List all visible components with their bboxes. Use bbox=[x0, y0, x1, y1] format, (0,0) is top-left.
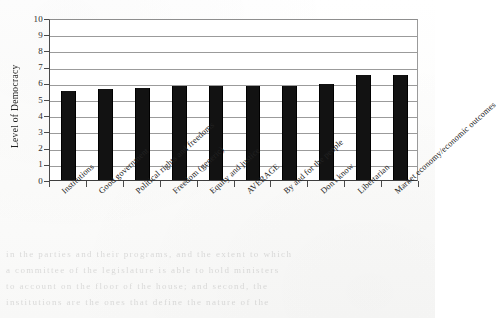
y-tick-label: 1 bbox=[13, 160, 43, 169]
x-tick-mark bbox=[270, 181, 271, 187]
bar bbox=[319, 84, 334, 180]
gridline bbox=[50, 52, 417, 53]
x-tick-mark bbox=[307, 181, 308, 187]
y-tick-label: 2 bbox=[13, 144, 43, 153]
x-tick-mark bbox=[418, 181, 419, 187]
bar bbox=[209, 86, 224, 180]
y-tick-label: 10 bbox=[13, 15, 43, 24]
gridline bbox=[50, 36, 417, 37]
y-tick-label: 9 bbox=[13, 31, 43, 40]
x-tick-mark bbox=[344, 181, 345, 187]
y-tick-label: 4 bbox=[13, 112, 43, 121]
bar bbox=[172, 86, 187, 180]
x-tick-mark bbox=[234, 181, 235, 187]
y-tick-label: 6 bbox=[13, 79, 43, 88]
gridline bbox=[50, 69, 417, 70]
bar bbox=[135, 88, 150, 180]
bar bbox=[246, 86, 261, 180]
bar bbox=[356, 75, 371, 180]
bar bbox=[393, 75, 408, 180]
x-tick-mark bbox=[197, 181, 198, 187]
bar bbox=[61, 91, 76, 180]
x-tick-mark bbox=[86, 181, 87, 187]
bar bbox=[282, 86, 297, 180]
y-tick-label: 8 bbox=[13, 47, 43, 56]
bar bbox=[98, 89, 113, 180]
y-tick-label: 3 bbox=[13, 128, 43, 137]
x-tick-mark bbox=[381, 181, 382, 187]
x-tick-mark bbox=[49, 181, 50, 187]
y-tick-label: 0 bbox=[13, 177, 43, 186]
x-tick-mark bbox=[160, 181, 161, 187]
plot-area bbox=[49, 19, 418, 181]
y-tick-label: 7 bbox=[13, 63, 43, 72]
y-tick-label: 5 bbox=[13, 96, 43, 105]
x-tick-mark bbox=[123, 181, 124, 187]
